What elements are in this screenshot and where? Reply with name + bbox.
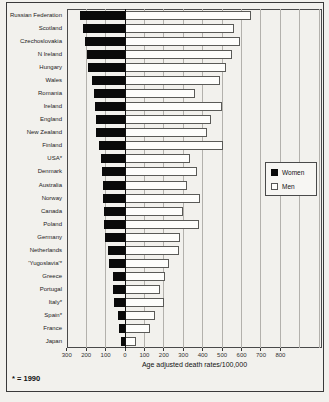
men-bar-italy [125,298,164,307]
gridline [105,9,106,348]
country-label-russian-federation: Russian Federation [0,11,62,20]
women-bar-russian-federation [80,11,125,20]
country-label-scotland: Scotland [0,24,62,33]
country-label-wales: Wales [0,76,62,85]
women-bar-usa [101,154,125,163]
x-tick-label: 200 [81,352,91,358]
country-label-yugoslavia: 'Yugoslavia'* [0,259,62,268]
x-tick-label: 300 [62,352,72,358]
x-tick-label: 800 [275,352,285,358]
x-tick [66,348,67,351]
gridline [86,9,87,348]
men-bar-france [125,324,150,333]
men-bar-denmark [125,167,197,176]
women-bar-greece [113,272,125,281]
women-swatch-icon [271,169,278,176]
gridline [183,9,184,348]
women-bar-italy [114,298,125,307]
men-bar-yugoslavia [125,259,169,268]
x-tick [86,348,87,351]
country-label-portugal: Portugal [0,285,62,294]
men-bar-australia [125,181,187,190]
gridline [319,9,320,348]
men-bar-japan [125,337,136,346]
women-bar-netherlands [108,246,125,255]
women-bar-canada [104,207,125,216]
men-bar-germany [125,233,180,242]
legend-item-men: Men [271,183,311,190]
country-label-netherlands: Netherlands [0,246,62,255]
country-label-hungary: Hungary [0,63,62,72]
men-bar-england [125,115,211,124]
men-bar-russian-federation [125,11,251,20]
men-bar-wales [125,76,220,85]
women-bar-norway [103,194,125,203]
women-bar-czechoslovakia [85,37,125,46]
men-bar-greece [125,272,165,281]
country-label-germany: Germany [0,233,62,242]
x-tick-label: 700 [256,352,266,358]
women-bar-hungary [88,63,125,72]
country-label-romania: Romania [0,89,62,98]
gridline [202,9,203,348]
women-bar-ireland [95,102,125,111]
x-tick-label: 100 [139,352,149,358]
x-tick [222,348,223,351]
men-swatch-icon [271,183,278,190]
legend: Women Men [265,162,317,196]
men-bar-finland [125,141,223,150]
women-bar-denmark [102,167,125,176]
men-bar-usa [125,154,190,163]
men-bar-ireland [125,102,222,111]
x-tick [144,348,145,351]
axis-zero-line [125,9,126,348]
country-label-norway: Norway [0,194,62,203]
x-tick [163,348,164,351]
men-bar-netherlands [125,246,179,255]
country-label-canada: Canada [0,207,62,216]
men-bar-n-ireland [125,50,232,59]
x-tick [280,348,281,351]
x-tick-label: 400 [198,352,208,358]
x-tick-label: 500 [217,352,227,358]
men-bar-portugal [125,285,160,294]
x-tick [125,348,126,351]
x-tick-label: 300 [178,352,188,358]
men-bar-new-zealand [125,128,207,137]
gridline [260,9,261,348]
women-bar-germany [105,233,125,242]
women-bar-scotland [83,24,125,33]
country-label-n-ireland: N Ireland [0,50,62,59]
women-bar-portugal [113,285,125,294]
country-label-italy: Italy* [0,298,62,307]
men-bar-spain [125,311,155,320]
women-bar-new-zealand [96,128,125,137]
women-bar-yugoslavia [109,259,125,268]
women-bar-n-ireland [87,50,125,59]
country-label-france: France [0,324,62,333]
country-label-denmark: Denmark [0,167,62,176]
country-label-australia: Australia [0,181,62,190]
country-label-greece: Greece [0,272,62,281]
country-label-ireland: Ireland [0,102,62,111]
x-axis-title: Age adjusted death rates/100,000 [67,361,322,368]
x-tick [105,348,106,351]
country-label-new-zealand: New Zealand [0,128,62,137]
women-bar-australia [103,181,125,190]
chart-figure: Russian FederationScotlandCzechoslovakia… [0,0,329,402]
legend-label-women: Women [282,169,304,176]
legend-item-women: Women [271,169,311,176]
men-bar-norway [125,194,200,203]
footnote: * = 1990 [12,374,40,383]
country-label-spain: Spain* [0,311,62,320]
x-tick [241,348,242,351]
x-tick-label: 600 [237,352,247,358]
country-label-finland: Finland [0,141,62,150]
country-label-czechoslovakia: Czechoslovakia [0,37,62,46]
women-bar-wales [92,76,125,85]
x-tick-label: 0 [123,352,126,358]
men-bar-hungary [125,63,226,72]
x-tick [260,348,261,351]
gridline [241,9,242,348]
country-label-england: England [0,115,62,124]
